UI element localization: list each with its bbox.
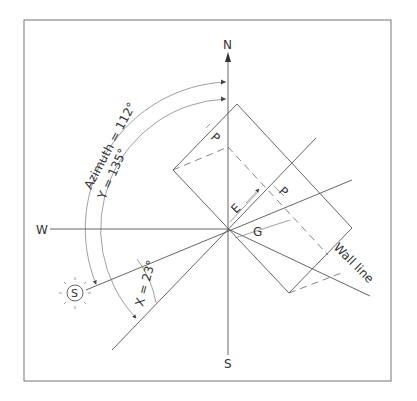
wall-line-label: Wall line [331,240,377,286]
north-label: N [223,38,232,52]
south-label: S [224,357,232,371]
shade-rectangle [173,104,352,293]
x-angle-label: X = 23° [132,259,158,308]
e-label: E [228,201,243,216]
solar-geometry-diagram: N S W S Azimuth = 112° Y = 135° X = 23° … [0,0,417,401]
dashed-projection-bottom [289,272,344,293]
wall-normal-line [112,138,316,350]
p-right-label: P [276,184,291,199]
dashed-wall-offset [228,147,328,255]
g-dimension-line [235,220,290,238]
g-label: G [253,225,262,239]
sun-label: S [71,287,78,300]
north-arrow-icon [225,52,231,62]
sun-direction-line [86,180,352,290]
frame-border [24,20,391,381]
dashed-projection-top [173,147,228,170]
west-label: W [36,223,48,237]
